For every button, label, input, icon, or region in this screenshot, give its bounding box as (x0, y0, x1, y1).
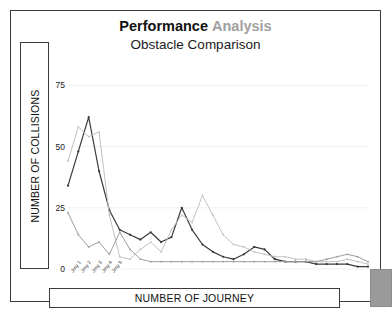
data-point-marker (336, 261, 338, 263)
data-point-marker (295, 258, 297, 260)
data-point-marker (119, 231, 121, 233)
data-point-marker (67, 160, 69, 162)
y-axis-tick-labels: 0255075 (49, 73, 65, 269)
data-point-marker (202, 261, 204, 263)
data-point-marker (212, 261, 214, 263)
data-point-marker (336, 256, 338, 258)
data-point-marker (336, 263, 338, 265)
data-point-marker (150, 261, 152, 263)
data-point-marker (88, 136, 90, 138)
data-point-marker (98, 241, 100, 243)
data-point-marker (243, 253, 245, 255)
data-point-marker (243, 246, 245, 248)
data-point-marker (150, 241, 152, 243)
data-point-marker (274, 261, 276, 263)
data-point-marker (191, 229, 193, 231)
data-point-marker (77, 234, 79, 236)
chart-frame: Performance Analysis Obstacle Comparison… (10, 10, 381, 302)
data-point-marker (160, 241, 162, 243)
data-point-marker (253, 251, 255, 253)
data-point-marker (140, 258, 142, 260)
y-axis-tick-label: 50 (56, 142, 65, 152)
legend-swatch-block (370, 269, 392, 307)
data-point-marker (160, 261, 162, 263)
data-point-marker (315, 263, 317, 265)
data-point-marker (160, 251, 162, 253)
data-point-marker (232, 258, 234, 260)
data-point-marker (222, 261, 224, 263)
data-point-marker (243, 261, 245, 263)
data-point-marker (253, 261, 255, 263)
line-chart-svg (68, 73, 368, 269)
data-point-marker (108, 253, 110, 255)
title-primary: Performance (119, 18, 208, 34)
data-point-marker (170, 236, 172, 238)
data-point-marker (233, 244, 235, 246)
data-point-marker (88, 116, 90, 118)
data-point-marker (284, 261, 286, 263)
data-point-marker (88, 246, 90, 248)
data-point-marker (357, 261, 359, 263)
data-point-marker (274, 258, 276, 260)
plot-area (68, 73, 368, 269)
data-point-marker (367, 263, 369, 265)
data-point-marker (264, 261, 266, 263)
data-point-marker (295, 261, 297, 263)
data-point-marker (346, 263, 348, 265)
data-point-marker (67, 212, 69, 214)
chart-title-block: Performance Analysis Obstacle Comparison (11, 17, 380, 54)
data-point-marker (129, 234, 131, 236)
data-point-marker (284, 256, 286, 258)
data-series-line (68, 127, 368, 264)
data-series-line (68, 117, 368, 266)
title-secondary: Analysis (212, 18, 272, 34)
data-point-marker (77, 126, 79, 128)
data-point-marker (129, 258, 131, 260)
data-point-marker (357, 265, 359, 267)
data-point-marker (367, 261, 369, 263)
data-point-marker (326, 258, 328, 260)
data-point-marker (181, 261, 183, 263)
data-point-marker (202, 195, 204, 197)
data-point-marker (263, 248, 265, 250)
data-point-marker (129, 249, 131, 251)
data-point-marker (274, 256, 276, 258)
data-point-marker (315, 261, 317, 263)
data-point-marker (108, 214, 110, 216)
data-point-marker (181, 214, 183, 216)
data-point-marker (77, 150, 79, 152)
y-axis-tick-label: 25 (56, 203, 65, 213)
y-axis-tick-label: 0 (60, 264, 65, 274)
data-point-marker (357, 256, 359, 258)
data-point-marker (191, 222, 193, 224)
data-point-marker (222, 234, 224, 236)
data-point-marker (346, 258, 348, 260)
data-point-marker (140, 249, 142, 251)
data-point-marker (139, 239, 141, 241)
data-point-marker (181, 207, 183, 209)
data-point-marker (191, 261, 193, 263)
data-point-marker (98, 131, 100, 133)
data-point-marker (150, 231, 152, 233)
data-point-marker (253, 246, 255, 248)
page-title: Performance Analysis (11, 17, 380, 35)
x-axis-tick-labels: Jrny 1Jrny 2Jrny 3Jrny 4Jrny 5 (68, 270, 368, 290)
data-point-marker (326, 263, 328, 265)
data-point-marker (201, 243, 203, 245)
data-point-marker (171, 261, 173, 263)
data-point-marker (212, 251, 214, 253)
data-point-marker (212, 214, 214, 216)
data-point-marker (305, 261, 307, 263)
data-point-marker (367, 265, 369, 267)
data-point-marker (233, 261, 235, 263)
data-point-marker (264, 253, 266, 255)
x-axis-title-box: NUMBER OF JOURNEY (49, 288, 340, 308)
y-axis-tick-label: 75 (56, 80, 65, 90)
x-axis-title: NUMBER OF JOURNEY (135, 292, 255, 304)
data-point-marker (67, 185, 69, 187)
data-point-marker (119, 256, 121, 258)
data-point-marker (326, 261, 328, 263)
data-point-marker (119, 229, 121, 231)
data-point-marker (98, 170, 100, 172)
data-point-marker (171, 229, 173, 231)
